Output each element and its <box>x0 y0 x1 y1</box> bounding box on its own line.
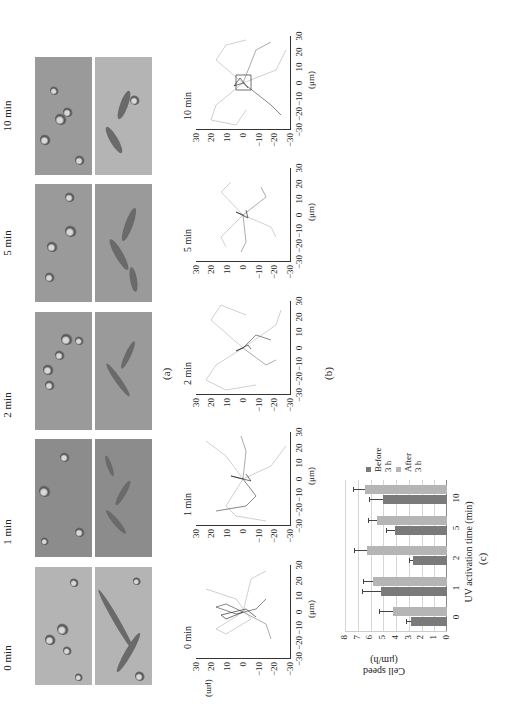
column-label-1min: 1 min <box>1 473 13 591</box>
trajectory-plot-2min: 2 min 30 20 10 0 −10 −20 −30 −30 −20 −10… <box>196 295 296 395</box>
micrograph-5min-t05h <box>35 184 92 302</box>
trajectory-plot-0min: 0 min 30 20 10 0 −10 −20 −30 −30 −20 −10… <box>196 559 296 659</box>
cell-speed-bar-chart: 0 1 2 3 4 5 6 7 8 0 1 2 5 10 UV activati… <box>345 480 447 632</box>
bar-before-10 <box>383 495 447 504</box>
y-axis-title: Cell speed (μm/h) <box>354 655 414 677</box>
panel-label-b: (b) <box>322 367 334 380</box>
x-axis-title: UV activation time (min) <box>463 487 474 617</box>
error-cap <box>386 528 387 533</box>
error-cap <box>409 558 410 563</box>
legend-after: After 3 h <box>393 448 423 473</box>
y-axis-unit: (μm) <box>205 679 215 697</box>
error-cap <box>379 609 380 614</box>
column-label-5min: 5 min <box>1 184 13 302</box>
micrograph-2min-t05h <box>35 312 92 430</box>
error-bar <box>368 520 377 521</box>
bar-after-0 <box>393 607 447 616</box>
bar-before-0 <box>411 617 447 626</box>
column-label-2min: 2 min <box>1 346 13 464</box>
error-bar <box>379 611 393 612</box>
error-cap <box>369 497 370 502</box>
figure: 0 min 1 min 2 min 5 min 10 min t = 0.5 h… <box>0 0 514 721</box>
panel-label-c: (c) <box>476 553 488 565</box>
column-label-0min: 0 min <box>1 599 13 717</box>
micrograph-0min-t05h <box>35 567 92 685</box>
trajectory-lines <box>196 565 290 659</box>
bar-after-10 <box>365 485 447 494</box>
micrograph-10min-t16h <box>95 57 152 175</box>
legend-before: Before 3 h <box>363 448 393 473</box>
bar-before-1 <box>381 587 447 596</box>
panel-label-a: (a) <box>160 368 172 380</box>
trajectory-plot-10min: 10 min 30 20 10 0 −10 −20 −30 −30 −20 −1… <box>196 30 296 130</box>
bar-after-2 <box>367 546 447 555</box>
error-bar <box>369 499 383 500</box>
bar-after-5 <box>377 516 447 525</box>
trajectory-plot-5min: 5 min 30 20 10 0 −10 −20 −30 −30 −20 −10… <box>196 162 296 262</box>
error-bar <box>363 581 373 582</box>
micrograph-0min-t16h <box>95 567 152 685</box>
error-bar <box>354 550 367 551</box>
error-cap <box>368 518 369 523</box>
bar-after-1 <box>373 577 447 586</box>
micrograph-2min-t16h <box>95 312 152 430</box>
micrograph-1min-t05h <box>35 439 92 557</box>
error-bar <box>353 489 366 490</box>
error-cap <box>353 487 354 492</box>
error-bar <box>362 591 381 592</box>
error-cap <box>363 579 364 584</box>
column-label-10min: 10 min <box>1 57 13 175</box>
micrograph-10min-t05h <box>35 57 92 175</box>
error-bar <box>386 530 395 531</box>
bar-before-5 <box>395 526 447 535</box>
legend: Before 3 h After 3 h <box>363 448 423 473</box>
x-axis-unit: (μm) <box>306 589 316 629</box>
trajectory-plot-1min: 1 min 30 20 10 0 −10 −20 −30 −30 −20 −10… <box>196 426 296 526</box>
error-cap <box>362 589 363 594</box>
error-cap <box>406 619 407 624</box>
micrograph-1min-t16h <box>95 439 152 557</box>
error-cap <box>354 548 355 553</box>
micrograph-5min-t16h <box>95 184 152 302</box>
bar-before-2 <box>413 556 447 565</box>
plot-title: 0 min <box>182 626 193 649</box>
